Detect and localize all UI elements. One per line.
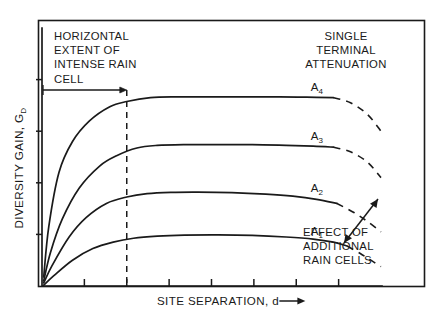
curve-dashed-tail-A3 (334, 147, 381, 177)
chart-svg: A4A3A2A1HORIZONTALEXTENT OFINTENSE RAINC… (0, 0, 442, 325)
annotation-single-terminal-line: SINGLE (324, 30, 367, 42)
annotation-horizontal-extent-line: CELL (54, 73, 83, 85)
annotation-horizontal-extent-line: INTENSE RAIN (54, 58, 137, 70)
x-tick-group (84, 279, 338, 286)
x-axis-title-arrow-head (297, 298, 305, 305)
curve-line-A1 (44, 235, 347, 285)
x-axis-title-text: SITE SEPARATION, d (157, 294, 279, 307)
horizontal-extent-arrow (43, 85, 127, 95)
figure-panel: A4A3A2A1HORIZONTALEXTENT OFINTENSE RAINC… (0, 0, 442, 325)
annotation-effect-additional-rain-cells: EFFECT OFADDITIONALRAIN CELLS (303, 226, 374, 266)
annotation-effect-additional-rain-cells-line: RAIN CELLS (303, 254, 372, 266)
annotation-single-terminal: SINGLETERMINALATTENUATION (305, 30, 386, 70)
annotation-horizontal-extent-line: HORIZONTAL (54, 30, 129, 42)
series-labels: A4A3A2A1 (311, 81, 324, 240)
annotation-effect-additional-rain-cells-line: EFFECT OF (303, 226, 368, 238)
curve-dashed-tail-A4 (334, 98, 381, 132)
y-axis-title-text: DIVERSITY GAIN, GD (12, 107, 28, 228)
series-label-A3: A3 (311, 130, 324, 145)
x-axis-title: SITE SEPARATION, d (157, 294, 305, 307)
annotation-horizontal-extent: HORIZONTALEXTENT OFINTENSE RAINCELL (54, 30, 137, 85)
annotation-horizontal-extent-line: EXTENT OF (54, 44, 120, 56)
series-label-A4: A4 (311, 81, 324, 96)
annotation-single-terminal-line: TERMINAL (316, 44, 376, 56)
annotation-single-terminal-line: ATTENUATION (305, 58, 386, 70)
extent-arrow-head-right (120, 87, 127, 93)
curve-line-A3 (44, 145, 334, 281)
annotation-effect-additional-rain-cells-line: ADDITIONAL (303, 240, 374, 252)
series-label-A2: A2 (311, 182, 324, 197)
y-axis-title: DIVERSITY GAIN, GD (12, 107, 28, 228)
curve-line-A4 (44, 97, 334, 277)
